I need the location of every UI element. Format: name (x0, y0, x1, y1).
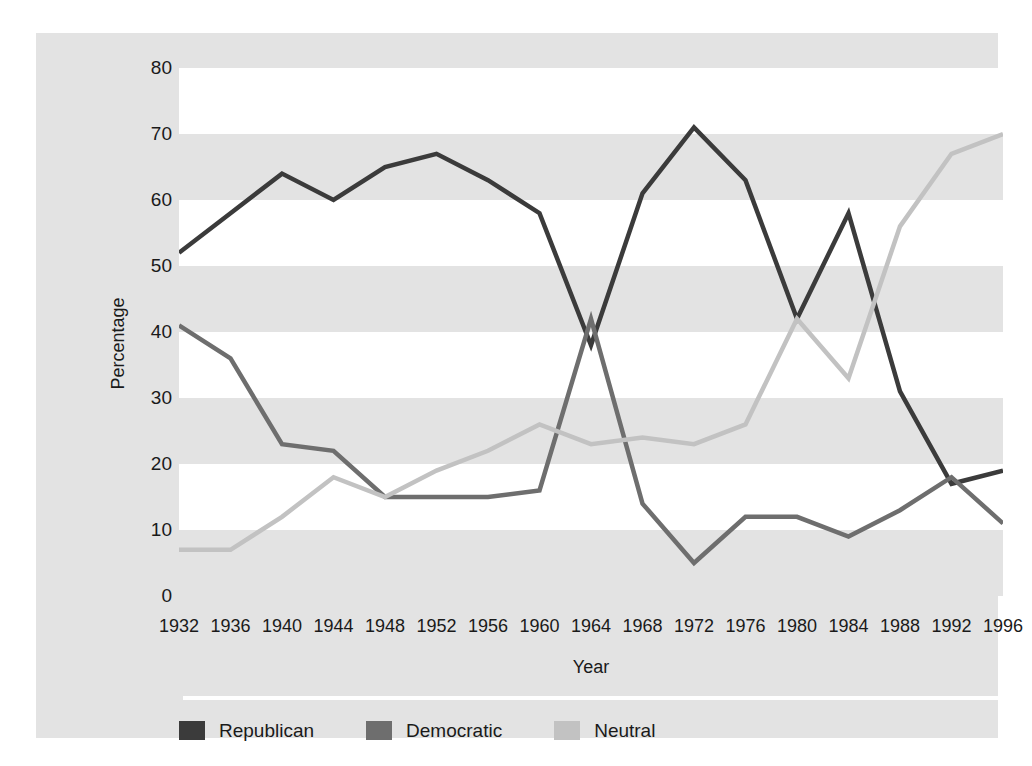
x-axis-title: Year (179, 657, 1003, 678)
legend-item-neutral[interactable]: Neutral (554, 721, 655, 740)
y-tick-label: 10 (132, 520, 172, 539)
grid-band (179, 134, 1003, 200)
y-tick-label: 0 (132, 586, 172, 605)
legend-item-democratic[interactable]: Democratic (366, 721, 502, 740)
chart-figure: 80706050403020100 Percentage 19321936194… (0, 0, 1032, 766)
legend-swatch-icon (554, 721, 580, 740)
y-tick-label: 40 (132, 322, 172, 341)
x-axis-ticks: 1932193619401944194819521956196019641968… (179, 616, 1003, 642)
legend-item-republican[interactable]: Republican (179, 721, 314, 740)
legend-label: Republican (219, 721, 314, 740)
grid-band (179, 530, 1003, 596)
y-tick-label: 60 (132, 190, 172, 209)
legend-divider (183, 696, 999, 700)
legend-label: Democratic (406, 721, 502, 740)
grid-band (179, 398, 1003, 464)
chart-legend: RepublicanDemocraticNeutral (179, 715, 707, 745)
y-tick-label: 70 (132, 124, 172, 143)
x-tick-label: 1996 (973, 616, 1032, 636)
legend-label: Neutral (594, 721, 655, 740)
legend-swatch-icon (366, 721, 392, 740)
y-tick-label: 30 (132, 388, 172, 407)
grid-band (179, 68, 1003, 134)
chart-panel: 80706050403020100 Percentage 19321936194… (36, 33, 998, 738)
grid-band (179, 200, 1003, 266)
y-tick-label: 20 (132, 454, 172, 473)
plot-area (179, 68, 1003, 596)
y-axis-ticks: 80706050403020100 (124, 68, 172, 596)
y-tick-label: 80 (132, 58, 172, 77)
plot-svg (179, 68, 1003, 596)
y-axis-title: Percentage (108, 254, 129, 434)
y-tick-label: 50 (132, 256, 172, 275)
legend-swatch-icon (179, 721, 205, 740)
